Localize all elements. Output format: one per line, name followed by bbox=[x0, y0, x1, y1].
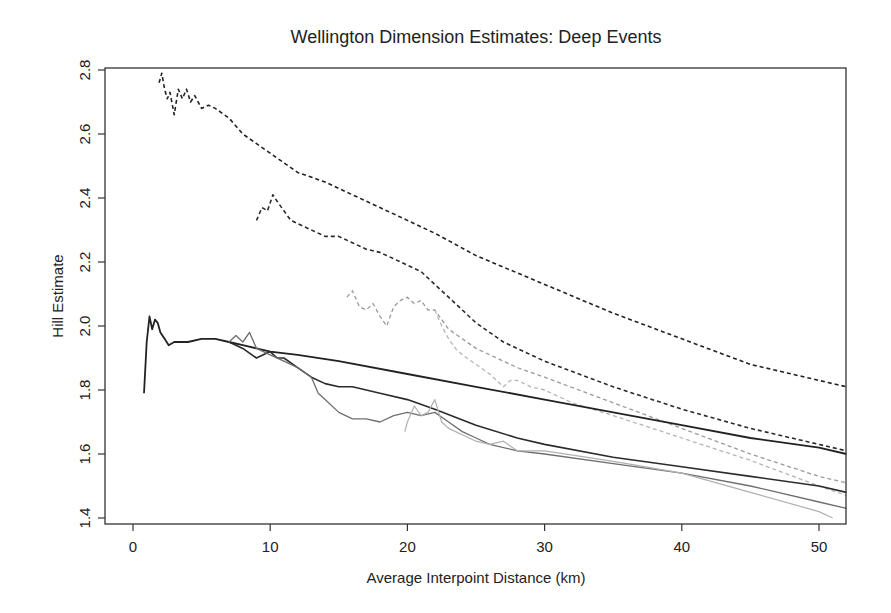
y-tick-label: 1.4 bbox=[76, 508, 93, 529]
x-tick-label: 0 bbox=[129, 538, 137, 555]
chart-title: Wellington Dimension Estimates: Deep Eve… bbox=[291, 27, 662, 47]
y-tick-label: 2.2 bbox=[76, 252, 93, 273]
x-tick-label: 20 bbox=[399, 538, 416, 555]
x-tick-label: 50 bbox=[811, 538, 828, 555]
chart-figure: Wellington Dimension Estimates: Deep Eve… bbox=[0, 0, 891, 613]
y-tick-label: 2.6 bbox=[76, 124, 93, 145]
series-line-solid-light bbox=[405, 400, 833, 518]
y-axis: 1.41.61.82.02.22.42.62.8 bbox=[76, 60, 105, 529]
x-axis: 01020304050 bbox=[129, 524, 828, 555]
plot-lines bbox=[144, 73, 846, 518]
series-line-dashed-dark-1 bbox=[159, 73, 846, 387]
y-axis-label: Hill Estimate bbox=[49, 254, 66, 337]
y-tick-label: 1.8 bbox=[76, 380, 93, 401]
y-tick-label: 2.8 bbox=[76, 60, 93, 81]
y-tick-label: 2.4 bbox=[76, 188, 93, 209]
y-tick-label: 1.6 bbox=[76, 444, 93, 465]
x-tick-label: 10 bbox=[262, 538, 279, 555]
series-line-dashed-dark-2 bbox=[257, 195, 847, 451]
x-axis-label: Average Interpoint Distance (km) bbox=[367, 569, 586, 586]
y-tick-label: 2.0 bbox=[76, 316, 93, 337]
x-tick-label: 30 bbox=[536, 538, 553, 555]
x-tick-label: 40 bbox=[673, 538, 690, 555]
